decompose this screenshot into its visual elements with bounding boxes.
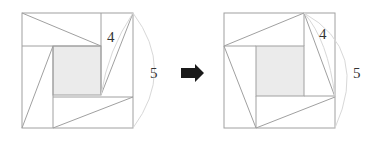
diagram-canvas: 4 5 4 5: [0, 0, 383, 142]
left-figure: [22, 13, 155, 128]
right-arrow-icon: [181, 64, 204, 82]
left-inner-square: [53, 46, 101, 95]
right-inner-square: [256, 46, 304, 96]
left-diagonal-top: [22, 13, 101, 46]
left-label-5: 5: [150, 65, 158, 81]
right-label-5: 5: [353, 65, 361, 81]
left-diagonal-right: [101, 13, 133, 95]
left-diagonal-left: [22, 46, 53, 128]
left-diagonal-bottom: [53, 97, 133, 128]
right-figure: [224, 13, 347, 128]
left-label-4: 4: [107, 29, 115, 45]
right-label-4: 4: [319, 26, 327, 42]
